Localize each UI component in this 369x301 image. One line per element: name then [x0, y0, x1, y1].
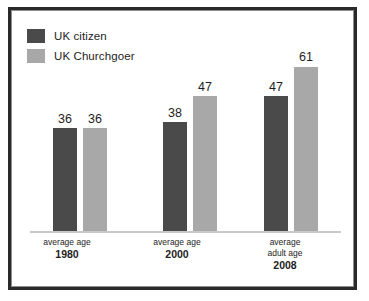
- bar-value-2000-uk-citizen: 38: [168, 107, 182, 120]
- bar-2008-uk-citizen: [264, 96, 288, 231]
- category-label-2000: average age 2000: [132, 237, 222, 260]
- chart-plot-area: UK citizen UK Churchgoer 36 36: [12, 11, 353, 286]
- bar-slot-2000-uk-citizen: 38: [163, 51, 187, 231]
- bar-2008-uk-churchgoer: [294, 67, 318, 232]
- bar-2000-uk-citizen: [163, 122, 187, 231]
- category-label-2000-line1: average age: [153, 237, 200, 247]
- bar-1980-uk-citizen: [53, 128, 77, 231]
- category-label-2008-line2: adult age: [268, 248, 303, 258]
- bar-slot-2008-uk-churchgoer: 61: [294, 51, 318, 231]
- bar-value-1980-uk-churchgoer: 36: [88, 113, 102, 126]
- bar-value-1980-uk-citizen: 36: [58, 113, 72, 126]
- bar-2000-uk-churchgoer: [193, 96, 217, 231]
- category-label-1980-line1: average age: [43, 237, 90, 247]
- category-label-2000-year: 2000: [132, 249, 222, 260]
- bar-value-2008-uk-citizen: 47: [269, 81, 283, 94]
- bar-slot-2000-uk-churchgoer: 47: [193, 51, 217, 231]
- category-label-2008-year: 2008: [240, 260, 330, 271]
- category-label-1980: average age 1980: [22, 237, 112, 260]
- bar-value-2000-uk-churchgoer: 47: [198, 81, 212, 94]
- category-label-2008-line1: average: [270, 237, 301, 247]
- bar-slot-1980-uk-churchgoer: 36: [83, 51, 107, 231]
- category-label-2008: average adult age 2008: [240, 237, 330, 271]
- category-label-1980-year: 1980: [22, 249, 112, 260]
- bar-value-2008-uk-churchgoer: 61: [299, 51, 313, 64]
- bar-chart-figure: UK citizen UK Churchgoer 36 36: [0, 0, 369, 301]
- bar-slot-1980-uk-citizen: 36: [53, 51, 77, 231]
- bar-slot-2008-uk-citizen: 47: [264, 51, 288, 231]
- bar-1980-uk-churchgoer: [83, 128, 107, 231]
